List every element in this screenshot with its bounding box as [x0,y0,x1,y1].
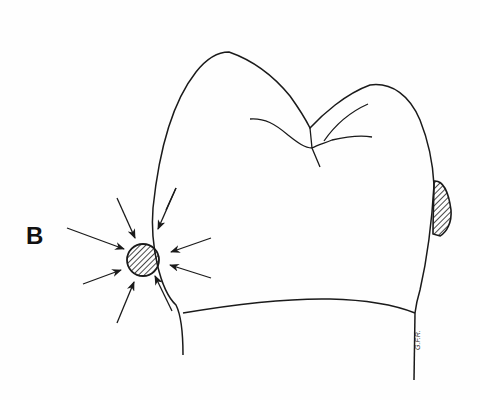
artist-signature: G.F.R. [414,330,421,350]
cervical-line [183,299,415,313]
tooth-drawing [0,0,480,400]
figure-canvas: B G.F.R. [0,0,480,400]
tooth-crown-outline [153,52,434,313]
occlusal-fissures [250,104,372,167]
distal-lesion [433,181,451,236]
figure-label: B [26,222,43,250]
contact-lesion [127,244,159,276]
